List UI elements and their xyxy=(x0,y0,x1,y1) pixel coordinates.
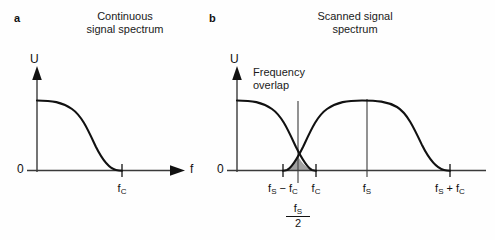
panel-b-fs-half-label: fS 2 xyxy=(286,203,310,229)
panel-b-tick-label-fs-plus-fc: fS + fC xyxy=(419,182,481,194)
panel-b-plot xyxy=(0,0,495,240)
panel-b-y-axis-label: U xyxy=(230,52,239,66)
panel-b-y-axis xyxy=(232,66,242,172)
panel-b-origin-label: 0 xyxy=(217,162,224,176)
panel-b-frequency-overlap-annotation: Frequency overlap xyxy=(253,66,305,92)
panel-b-baseband-curve xyxy=(237,101,316,171)
panel-b-tick-label-fs: fS xyxy=(352,182,382,194)
figure-spectra-diagram: a Continuous signal spectrum U 0 f fC b … xyxy=(0,0,495,240)
panel-b-tick-label-fc: fC xyxy=(301,182,331,194)
